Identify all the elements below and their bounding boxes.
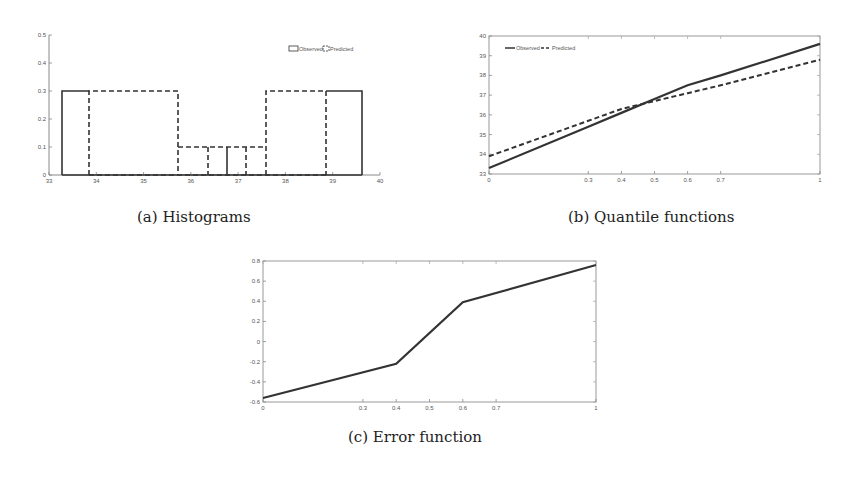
- x-tick-label: 0.3: [359, 405, 368, 411]
- y-tick-label: -0.4: [250, 379, 261, 385]
- y-tick-label: 0.6: [252, 278, 261, 284]
- y-tick-label: -0.2: [250, 359, 261, 365]
- caption-c: (c) Error function: [348, 428, 482, 446]
- x-tick-label: 0.4: [392, 405, 401, 411]
- x-ticks: 00.30.40.50.60.71: [261, 261, 598, 411]
- x-tick-label: 1: [594, 405, 598, 411]
- x-tick-label: 0.6: [459, 405, 468, 411]
- x-tick-label: 0.5: [425, 405, 434, 411]
- y-tick-label: 0.8: [252, 258, 261, 264]
- y-tick-label: 0.2: [252, 318, 261, 324]
- x-tick-label: 0.7: [492, 405, 501, 411]
- plot-area: [263, 261, 596, 402]
- x-tick-label: 0: [261, 405, 265, 411]
- error-chart: -0.6-0.4-0.200.20.40.60.8 00.30.40.50.60…: [0, 0, 861, 420]
- y-tick-label: -0.6: [250, 399, 261, 405]
- y-tick-label: 0.4: [252, 298, 261, 304]
- y-tick-label: 0: [257, 339, 261, 345]
- error-line: [263, 265, 596, 398]
